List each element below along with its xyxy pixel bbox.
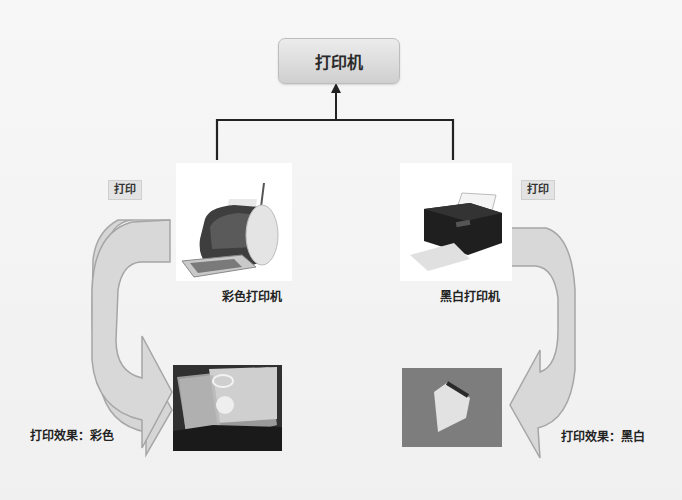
root-node-label: 打印机 xyxy=(315,49,363,73)
color-result-label: 打印效果：彩色 xyxy=(30,426,114,443)
print-action-tag-right: 打印 xyxy=(521,180,555,200)
bw-print-result-image xyxy=(402,368,502,447)
color-photo-print xyxy=(173,365,282,451)
bw-printer-label: 黑白打印机 xyxy=(440,287,500,304)
print-action-tag-left: 打印 xyxy=(108,180,142,200)
bw-result-label: 打印效果：黑白 xyxy=(561,427,645,444)
diagram-canvas: 打印机 打印 打印 xyxy=(0,0,682,500)
grayscale-photo-print xyxy=(402,368,502,447)
arrow-up-icon xyxy=(331,83,341,93)
color-print-result-image xyxy=(173,365,282,451)
color-inkjet-printer-icon xyxy=(176,163,292,281)
right-curved-arrow-icon xyxy=(508,228,575,458)
root-node-printer: 打印机 xyxy=(278,38,400,84)
color-printer-label: 彩色打印机 xyxy=(222,287,282,304)
black-printer-icon xyxy=(400,163,512,281)
color-printer-image xyxy=(176,163,292,281)
bw-printer-image xyxy=(400,163,512,281)
